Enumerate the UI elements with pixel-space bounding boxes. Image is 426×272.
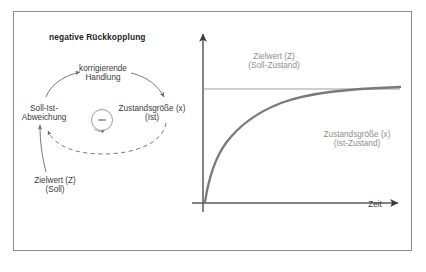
chart-annotation-zielwert-line2: (Soll-Zustand) [248, 61, 299, 70]
loop-node-soll-ist-abweichung: Soll-Ist- Abweichung [22, 104, 67, 122]
chart-x-axis-label: Zeit [368, 200, 382, 209]
loop-edge-abweichung-to-handlung [46, 72, 80, 97]
chart-annotation-zustandsgroesse-line1: Zustandsgröße (x) [324, 130, 391, 139]
chart-annotation-zustandsgroesse: Zustandsgröße (x) (Ist-Zustand) [324, 130, 391, 148]
figure-canvas: negative Rückkopplung korrigierende Hand… [0, 0, 426, 272]
loop-edge-handlung-to-zustand [131, 73, 164, 97]
loop-node-korrigierende-handlung-line2: Handlung [79, 73, 127, 82]
loop-node-zielwert-line1: Zielwert (Z) [34, 176, 75, 185]
loop-edge-zustand-to-abweichung-dashed [48, 123, 166, 154]
loop-node-zielwert-line2: (Soll) [34, 185, 75, 194]
loop-node-zustandsgroesse: Zustandsgröße (x) (Ist) [119, 104, 186, 122]
loop-node-zustandsgroesse-line2: (Ist) [119, 113, 186, 122]
chart-annotation-zielwert: Zielwert (Z) (Soll-Zustand) [248, 52, 299, 70]
page-title: negative Rückkopplung [49, 33, 146, 42]
polarity-marker-circle [92, 110, 113, 132]
chart-annotation-zielwert-line1: Zielwert (Z) [248, 52, 299, 61]
loop-node-zustandsgroesse-line1: Zustandsgröße (x) [119, 104, 186, 113]
loop-node-soll-ist-abweichung-line2: Abweichung [22, 113, 67, 122]
loop-edge-zielwert-to-abweichung [40, 125, 46, 172]
loop-node-korrigierende-handlung-line1: korrigierende [79, 64, 127, 73]
chart-annotation-zustandsgroesse-line2: (Ist-Zustand) [324, 139, 391, 148]
loop-node-soll-ist-abweichung-line1: Soll-Ist- [22, 104, 67, 113]
loop-node-zielwert: Zielwert (Z) (Soll) [34, 176, 75, 194]
loop-node-korrigierende-handlung: korrigierende Handlung [79, 64, 127, 82]
